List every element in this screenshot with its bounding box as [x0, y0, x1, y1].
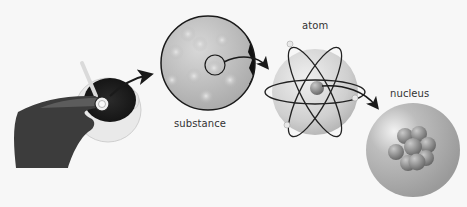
atom-illustration — [265, 41, 365, 143]
label-atom: atom — [302, 20, 328, 31]
diagram: substance atom nucleus — [0, 0, 467, 207]
nucleus-illustration — [366, 103, 460, 197]
diagram-graphic — [0, 0, 467, 207]
cup-and-hand-illustration — [14, 63, 141, 168]
label-substance: substance — [174, 118, 226, 129]
label-nucleus: nucleus — [390, 88, 429, 99]
substance-sphere — [161, 16, 262, 110]
